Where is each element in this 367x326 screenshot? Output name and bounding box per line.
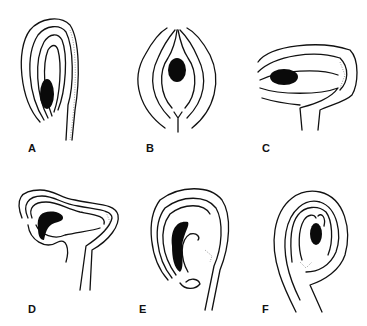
panel-label-c: C <box>262 142 270 154</box>
embryo-sac-a <box>40 79 54 109</box>
panel-c-drawing <box>258 45 357 130</box>
panel-b-drawing <box>138 28 216 132</box>
panel-f-drawing <box>274 191 348 312</box>
embryo-sac-c <box>270 69 298 85</box>
panel-e-drawing <box>151 189 228 310</box>
embryo-sac-f <box>310 223 322 245</box>
panel-label-a: A <box>28 142 36 154</box>
panel-label-e: E <box>139 303 146 315</box>
ovule-diagram <box>0 0 367 326</box>
panel-a-drawing <box>21 19 78 140</box>
panel-label-f: F <box>262 303 269 315</box>
embryo-sac-b <box>168 58 186 82</box>
panel-label-b: B <box>146 142 154 154</box>
panel-label-d: D <box>28 303 36 315</box>
embryo-sac-e <box>172 222 189 272</box>
panel-d-drawing <box>19 190 118 290</box>
